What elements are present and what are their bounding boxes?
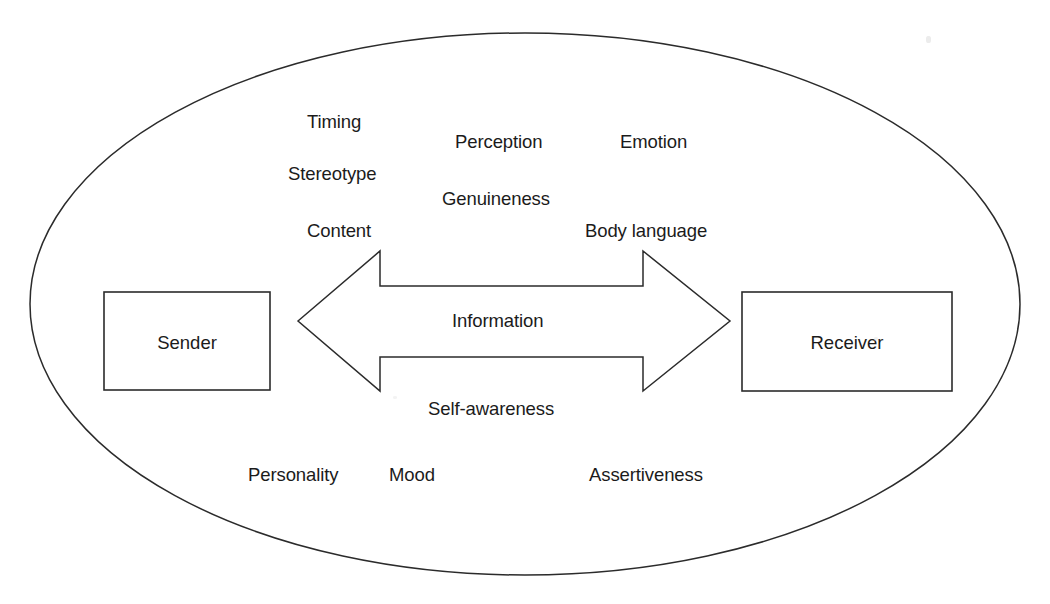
factor-label-perception: Perception (455, 132, 542, 152)
factor-label-self-awareness: Self-awareness (428, 399, 554, 419)
diagram-vector-layer (0, 0, 1050, 604)
scan-speck (874, 337, 878, 341)
sender-box-label: Sender (104, 333, 270, 353)
factor-label-genuineness: Genuineness (442, 189, 550, 209)
context-ellipse (30, 33, 1020, 575)
arrow-label-information: Information (452, 311, 543, 331)
factor-label-personality: Personality (248, 465, 338, 485)
factor-label-timing: Timing (307, 112, 361, 132)
scan-speck (926, 36, 931, 43)
factor-label-emotion: Emotion (620, 132, 687, 152)
scan-speck (393, 396, 397, 399)
diagram-canvas: Sender Receiver Information Timing Perce… (0, 0, 1050, 604)
factor-label-content: Content (307, 221, 371, 241)
factor-label-stereotype: Stereotype (288, 164, 376, 184)
factor-label-mood: Mood (389, 465, 435, 485)
receiver-box-label: Receiver (742, 333, 952, 353)
factor-label-assertiveness: Assertiveness (589, 465, 703, 485)
factor-label-body-language: Body language (585, 221, 707, 241)
